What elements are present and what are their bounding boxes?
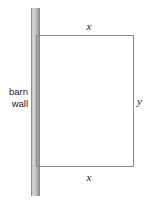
barn-wall-caption: barn wall <box>0 86 28 110</box>
dimension-label-y-right: y <box>137 96 142 107</box>
dimension-label-x-top: x <box>0 21 146 32</box>
barn-wall-diagram: barn wall x y x <box>0 0 146 202</box>
fenced-rectangle <box>36 35 134 167</box>
barn-wall-caption-line1: barn <box>0 86 28 98</box>
barn-wall-caption-line2: wall <box>0 98 28 110</box>
dimension-label-x-bottom: x <box>0 172 146 183</box>
